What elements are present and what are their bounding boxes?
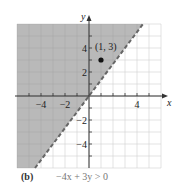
x-tick-label: −2	[60, 99, 71, 110]
x-tick-label: 4	[135, 99, 140, 110]
inequality-caption: −4x + 3y > 0	[56, 171, 108, 182]
test-point-marker	[98, 57, 103, 62]
test-point-label: (1, 3)	[95, 41, 117, 53]
y-tick-label: −4	[76, 139, 87, 150]
y-axis-label: y	[80, 11, 86, 22]
y-axis-arrow-icon	[87, 15, 92, 21]
x-tick-label: −4	[36, 99, 47, 110]
y-tick-label: 4	[82, 43, 87, 54]
panel-label: (b)	[21, 171, 33, 183]
x-axis-label: x	[166, 97, 172, 108]
y-tick-label: 2	[82, 67, 87, 78]
inequality-graph: −4−2442−2−4 x y (1, 3) (b) −4x + 3y > 0	[0, 0, 177, 189]
y-tick-label: −2	[76, 115, 87, 126]
